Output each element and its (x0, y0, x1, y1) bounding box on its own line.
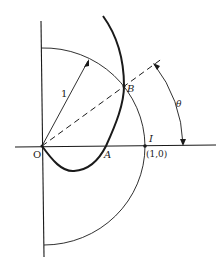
theta-ray (42, 58, 163, 146)
point-b-label: B (126, 83, 134, 94)
point-b-marker (122, 84, 125, 87)
radius-line (42, 61, 88, 146)
origin-label: O (33, 149, 41, 160)
bold-curve (42, 16, 124, 171)
theta-label: θ (176, 99, 182, 109)
diagram-canvas: O A B I (1,0) 1 θ (0, 0, 223, 271)
x-axis (15, 145, 216, 147)
point-a-label: A (103, 149, 111, 160)
radius-arrowhead-icon (84, 59, 89, 67)
point-i-marker (143, 144, 147, 148)
point-i-coords: (1,0) (146, 149, 167, 159)
radius-label: 1 (61, 88, 67, 99)
point-i-label: I (148, 133, 154, 144)
y-axis (41, 21, 44, 257)
origin-marker (41, 145, 44, 148)
theta-arrowhead-top-icon (153, 63, 160, 70)
